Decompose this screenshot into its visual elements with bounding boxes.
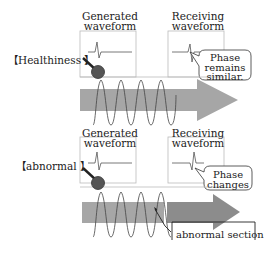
callout-line2: changes: [205, 180, 251, 190]
callout-phase-changes: Phase changes: [205, 170, 251, 189]
generated-label-line2: waveform: [82, 21, 138, 31]
generated-waveform-trace: [88, 152, 132, 170]
receiving-label-line2: waveform: [170, 138, 226, 148]
sensor-ball: [92, 177, 105, 190]
generated-label-line2: waveform: [82, 138, 138, 148]
callout-line3: similar.: [202, 72, 248, 82]
sensor-ball: [92, 66, 105, 79]
receiving-waveform-trace: [172, 152, 204, 170]
wave-propagation-arrow-after-abnormal: [167, 194, 240, 230]
receiving-label-line2: waveform: [170, 21, 226, 31]
abnormal-side-label: 【abnormal 】: [16, 158, 90, 173]
generated-waveform-label: Generated waveform: [82, 11, 138, 31]
generated-waveform-trace: [88, 42, 132, 58]
receiving-waveform-label: Receiving waveform: [170, 128, 226, 148]
healthiness-side-label: 【Healthiness 】: [8, 52, 94, 67]
abnormal-section-label: abnormal section: [176, 229, 264, 240]
wave-propagation-arrow-healthy-part: [82, 202, 164, 223]
generated-waveform-label: Generated waveform: [82, 128, 138, 148]
callout-phase-remains-similar: Phase remains similar.: [202, 53, 248, 82]
receiving-waveform-label: Receiving waveform: [170, 11, 226, 31]
